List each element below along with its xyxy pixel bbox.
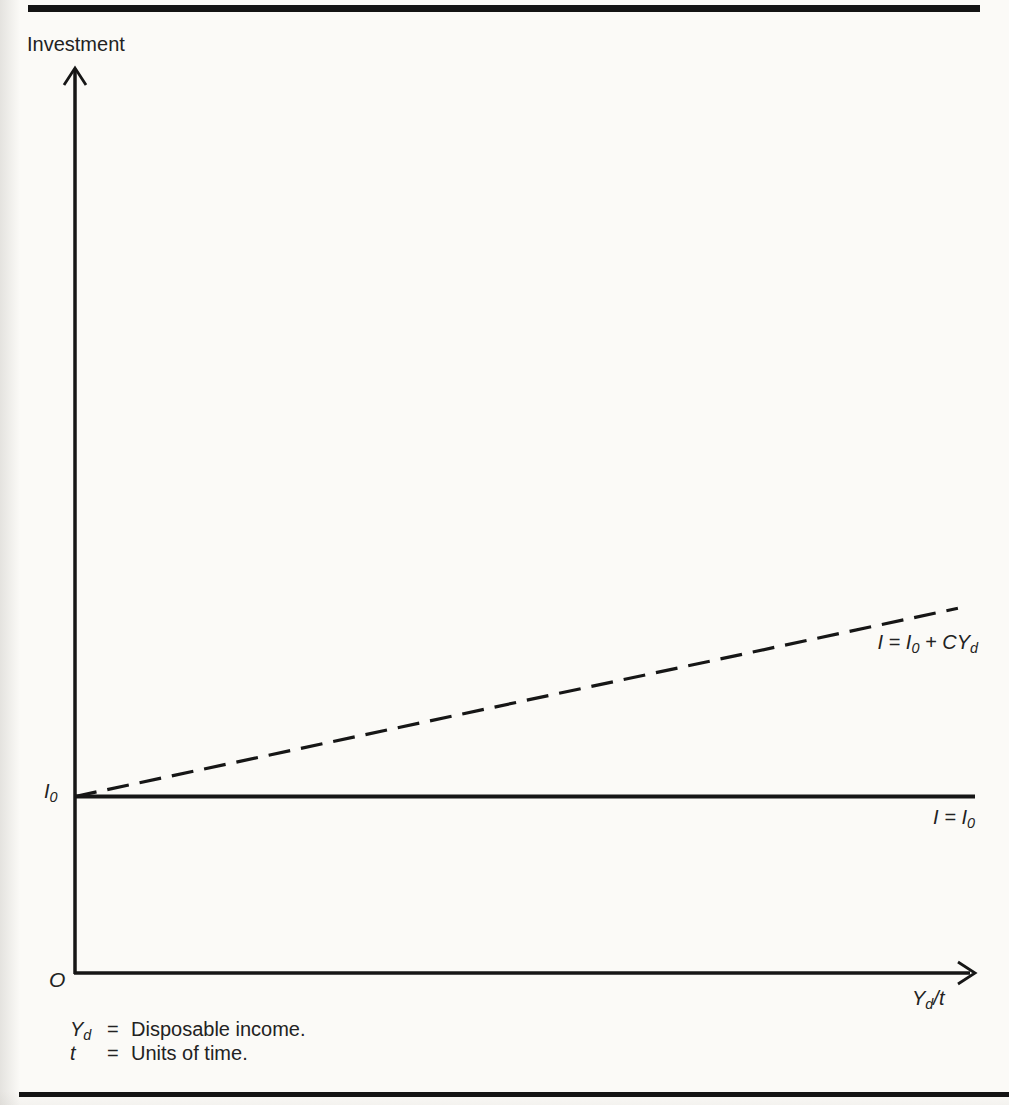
- legend-row-t: t = Units of time.: [70, 1041, 306, 1065]
- legend-definition-yd: Disposable income.: [131, 1017, 306, 1041]
- x-axis-label: Yd/t: [912, 987, 944, 1010]
- solid-line-label: I = I0: [933, 806, 975, 829]
- legend: Yd = Disposable income. t = Units of tim…: [70, 1017, 306, 1065]
- series-line-1: [75, 608, 958, 796]
- legend-row-yd: Yd = Disposable income.: [70, 1017, 306, 1041]
- legend-term-t: t: [70, 1041, 107, 1065]
- bottom-rule: [19, 1092, 1009, 1097]
- plot-canvas: [0, 0, 1009, 1105]
- legend-term-yd: Yd: [70, 1017, 107, 1041]
- y-intercept-label: I0: [44, 780, 58, 803]
- legend-equals-sign: =: [107, 1041, 131, 1065]
- origin-label: O: [49, 968, 65, 992]
- figure-page: Investment I0 O Yd/t I = I0 I = I0 + CYd…: [0, 0, 1009, 1105]
- dashed-line-label: I = I0 + CYd: [877, 631, 978, 654]
- legend-equals-sign: =: [107, 1017, 131, 1041]
- legend-definition-t: Units of time.: [131, 1041, 248, 1065]
